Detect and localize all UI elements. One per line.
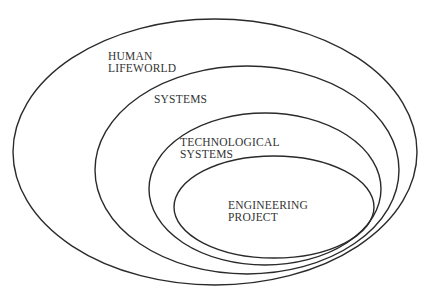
label-human-lifeworld-line2: LIFEWORLD — [108, 62, 176, 74]
label-engineering-project: ENGINEERING PROJECT — [228, 199, 308, 223]
label-technological-systems-line2: SYSTEMS — [180, 148, 280, 160]
label-engineering-project-line1: ENGINEERING — [228, 199, 308, 211]
label-systems: SYSTEMS — [154, 93, 207, 105]
ellipse-systems — [95, 66, 399, 274]
label-technological-systems: TECHNOLOGICAL SYSTEMS — [180, 136, 280, 160]
label-systems-line1: SYSTEMS — [154, 93, 207, 105]
label-technological-systems-line1: TECHNOLOGICAL — [180, 136, 280, 148]
label-human-lifeworld-line1: HUMAN — [108, 50, 176, 62]
label-engineering-project-line2: PROJECT — [228, 211, 308, 223]
label-human-lifeworld: HUMAN LIFEWORLD — [108, 50, 176, 74]
